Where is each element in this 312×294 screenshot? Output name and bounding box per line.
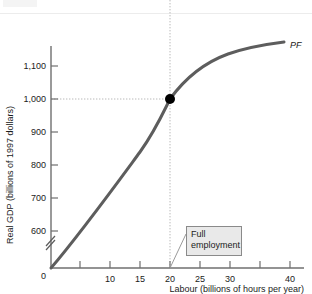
x-tick-label-30: 30 (225, 274, 235, 284)
callout-line-1: Full (191, 229, 237, 240)
x-axis-ticks (80, 261, 290, 268)
full-employment-marker[interactable] (165, 94, 175, 104)
full-employment-callout: Full employment (186, 226, 242, 256)
x-tick-label-15: 15 (135, 274, 145, 284)
y-tick-label-700: 700 (31, 193, 46, 203)
x-tick-label-25: 25 (195, 274, 205, 284)
y-tick-label-600: 600 (31, 226, 46, 236)
chart-canvas: 1,100 1,000 900 800 700 600 0 10 15 20 2… (0, 0, 312, 294)
y-tick-label-900: 900 (31, 127, 46, 137)
y-tick-label-1100: 1,100 (23, 61, 46, 71)
y-tick-label-0: 0 (41, 271, 46, 281)
callout-line-2: employment (191, 240, 237, 251)
y-tick-label-800: 800 (31, 160, 46, 170)
production-function-curve (51, 42, 284, 268)
x-tick-label-20: 20 (165, 274, 175, 284)
y-tick-label-1000: 1,000 (23, 94, 46, 104)
production-function-chart: 1,100 1,000 900 800 700 600 0 10 15 20 2… (0, 0, 312, 294)
x-tick-label-10: 10 (105, 274, 115, 284)
y-axis-ticks (51, 66, 58, 231)
x-axis-title: Labour (billions of hours per year) (169, 284, 304, 294)
x-tick-label-40: 40 (285, 274, 295, 284)
y-axis-title: Real GDP (billions of 1997 dollars) (5, 106, 15, 244)
curve-label-pf: PF (290, 40, 302, 50)
callout-leader-line (170, 234, 186, 268)
